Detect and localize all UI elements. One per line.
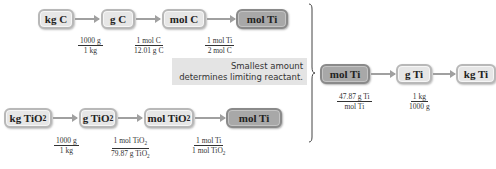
arrow [53,117,77,119]
box-g-c: g C [101,9,135,29]
box-mol-c: mol C [162,9,206,29]
box-kg-c: kg C [38,9,74,29]
box-mol-ti-top: mol Ti [236,9,288,29]
arrow [195,117,225,119]
box-kg-tio2: kg TiO2 [4,108,52,128]
fraction-mol-c-to-mol-ti: 1 mol Ti 2 mol C [205,36,234,55]
fraction-g-to-mol-tio2: 1 mol TiO2 79.87 g TiO2 [109,136,152,161]
fraction-mol-ti-to-g-ti: 47.87 g Ti mol Ti [337,92,372,111]
arrow [207,18,235,20]
box-g-ti: g Ti [396,64,432,84]
arrow [371,73,395,75]
box-mol-ti-bottom: mol Ti [226,108,282,128]
arrow [136,18,160,20]
box-mol-ti-result: mol Ti [320,64,370,84]
arrow [118,117,142,119]
box-g-tio2: g TiO2 [79,108,117,128]
fraction-kg-to-g-tio2: 1000 g 1 kg [54,136,79,155]
fraction-g-to-mol-c: 1 mol C 12.01 g C [132,36,165,55]
limiting-reactant-note: Smallest amount determines limiting reac… [172,58,307,85]
arrow [433,73,455,75]
brace-icon [308,3,316,143]
fraction-kg-to-g: 1000 g 1 kg [78,36,103,55]
box-mol-tio2: mol TiO2 [144,108,194,128]
arrow [75,18,99,20]
fraction-mol-tio2-to-mol-ti: 1 mol Ti 1 mol TiO2 [190,136,227,158]
fraction-g-ti-to-kg-ti: 1 kg 1000 g [407,92,432,111]
box-kg-ti: kg Ti [456,64,496,84]
